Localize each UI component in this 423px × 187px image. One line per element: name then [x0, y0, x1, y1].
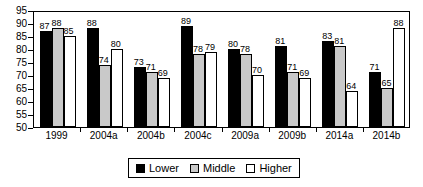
bar-value-label: 88 [393, 19, 403, 28]
y-axis-tick-label: 60 [16, 97, 27, 107]
bar-value-label: 71 [369, 63, 379, 72]
y-axis-tick-mark [28, 11, 33, 12]
x-axis-tick-mark [269, 128, 270, 132]
bar-value-label: 78 [193, 45, 203, 54]
x-axis-tick-label: 2009b [278, 130, 306, 142]
legend-swatch-icon [190, 164, 199, 173]
plot-area [33, 11, 410, 128]
y-axis-tick-mark [28, 102, 33, 103]
bar-2014a-middle [334, 46, 346, 127]
bar-value-label: 78 [240, 45, 250, 54]
bar-2004b-middle [146, 72, 158, 127]
bar-value-label: 88 [52, 19, 62, 28]
bar-value-label: 85 [64, 27, 74, 36]
legend-swatch-icon [246, 164, 255, 173]
y-axis-tick-mark [28, 89, 33, 90]
y-axis-tick-label: 50 [16, 123, 27, 133]
bar-2014a-lower [322, 41, 334, 127]
bar-1999-lower [40, 31, 52, 127]
y-axis-tick-mark [28, 37, 33, 38]
x-axis-tick-mark [127, 128, 128, 132]
bar-value-label: 70 [252, 66, 262, 75]
bar-value-label: 69 [158, 69, 168, 78]
bar-2009b-higher [299, 78, 311, 127]
y-axis-tick-label: 75 [16, 58, 27, 68]
bar-value-label: 83 [322, 32, 332, 41]
x-axis-tick-label: 2004c [184, 130, 211, 142]
x-axis-tick-mark [222, 128, 223, 132]
bar-2004c-lower [181, 26, 193, 127]
bar-value-label: 89 [181, 17, 191, 26]
bar-2004c-middle [193, 54, 205, 127]
legend-label: Higher [259, 163, 291, 174]
y-axis-tick-label: 70 [16, 71, 27, 81]
x-axis-tick-label: 2004b [137, 130, 165, 142]
y-axis-tick-label: 90 [16, 19, 27, 29]
x-axis-tick-label: 2014a [325, 130, 353, 142]
bar-value-label: 69 [299, 69, 309, 78]
bar-value-label: 79 [205, 43, 215, 52]
x-axis-tick-mark [174, 128, 175, 132]
bar-2004b-higher [158, 78, 170, 127]
bar-2009a-higher [252, 75, 264, 127]
bar-2014b-higher [393, 28, 405, 127]
y-axis-tick-mark [28, 115, 33, 116]
bar-2004a-middle [99, 65, 111, 127]
bar-value-label: 81 [275, 37, 285, 46]
y-axis-tick-mark [28, 24, 33, 25]
bar-value-label: 74 [99, 56, 109, 65]
legend-item-lower[interactable]: Lower [136, 163, 179, 174]
bar-2004c-higher [205, 52, 217, 127]
y-axis-tick-mark [28, 76, 33, 77]
bar-2004a-lower [87, 28, 99, 127]
y-axis-tick-mark [28, 63, 33, 64]
x-axis-tick-label: 2014b [373, 130, 401, 142]
legend-item-higher[interactable]: Higher [246, 163, 291, 174]
bar-value-label: 73 [134, 58, 144, 67]
bar-value-label: 88 [87, 19, 97, 28]
legend-swatch-icon [136, 164, 145, 173]
bar-value-label: 87 [40, 22, 50, 31]
bar-value-label: 80 [111, 40, 121, 49]
bar-value-label: 64 [346, 82, 356, 91]
x-axis-tick-label: 2004a [90, 130, 118, 142]
bar-value-label: 65 [381, 79, 391, 88]
bar-2009b-middle [287, 72, 299, 127]
x-axis-tick-mark [316, 128, 317, 132]
bar-2009b-lower [275, 46, 287, 127]
y-axis-tick-label: 95 [16, 6, 27, 16]
legend-item-middle[interactable]: Middle [190, 163, 235, 174]
y-axis-tick-label: 80 [16, 45, 27, 55]
x-axis: 19992004a2004b2004c2009a2009b2014a2014b [33, 130, 410, 146]
bar-value-label: 71 [287, 63, 297, 72]
x-axis-tick-label: 1999 [45, 130, 67, 142]
bar-2014b-lower [369, 72, 381, 127]
legend-label: Middle [203, 163, 235, 174]
y-axis: 50556065707580859095 [0, 11, 27, 128]
chart-legend: LowerMiddleHigher [128, 158, 300, 178]
bar-2004b-lower [134, 67, 146, 127]
bar-value-label: 81 [334, 37, 344, 46]
x-axis-tick-mark [363, 128, 364, 132]
bar-value-label: 80 [228, 40, 238, 49]
y-axis-tick-mark [28, 50, 33, 51]
bar-1999-higher [64, 36, 76, 127]
bar-2009a-lower [228, 49, 240, 127]
x-axis-tick-label: 2009a [231, 130, 259, 142]
y-axis-tick-label: 85 [16, 32, 27, 42]
y-axis-tick-label: 55 [16, 110, 27, 120]
y-axis-tick-mark [28, 128, 33, 129]
bar-chart: 50556065707580859095 19992004a2004b2004c… [0, 0, 423, 187]
bar-2009a-middle [240, 54, 252, 127]
bar-2014b-middle [381, 88, 393, 127]
bar-value-label: 71 [146, 63, 156, 72]
x-axis-tick-mark [80, 128, 81, 132]
bar-2014a-higher [346, 91, 358, 127]
y-axis-tick-label: 65 [16, 84, 27, 94]
legend-label: Lower [149, 163, 179, 174]
bar-2004a-higher [111, 49, 123, 127]
bar-1999-middle [52, 28, 64, 127]
